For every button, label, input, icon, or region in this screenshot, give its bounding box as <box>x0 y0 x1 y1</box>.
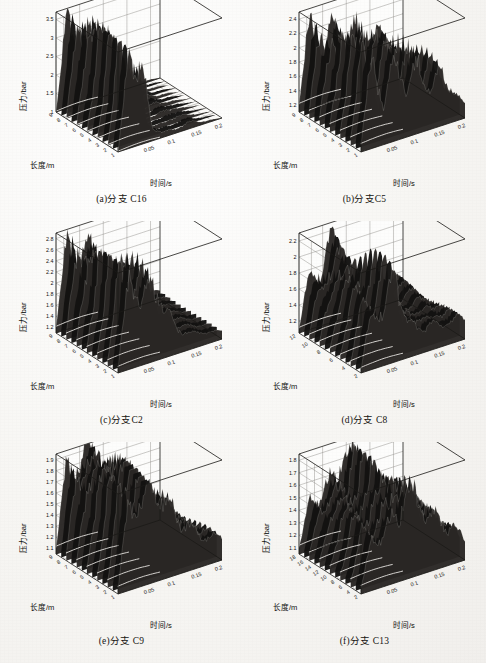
svg-text:4: 4 <box>87 358 93 365</box>
svg-text:4: 4 <box>330 137 336 144</box>
svg-text:8: 8 <box>56 559 62 566</box>
svg-text:2: 2 <box>102 147 108 154</box>
svg-text:7: 7 <box>63 564 69 571</box>
svg-text:0.05: 0.05 <box>143 365 155 374</box>
svg-text:5: 5 <box>79 574 85 581</box>
svg-text:0.1: 0.1 <box>410 137 419 145</box>
svg-text:2: 2 <box>294 254 297 260</box>
plot-panel-a: 11.522.533.50.050.10.150.2123456789压力/ba… <box>0 0 243 221</box>
svg-text:3: 3 <box>51 35 54 41</box>
plot-panel-d: 1.21.41.61.822.20.050.10.150.224681012压力… <box>243 221 486 442</box>
svg-text:时间/s: 时间/s <box>393 178 415 188</box>
svg-text:0.2: 0.2 <box>457 564 466 572</box>
svg-text:0.15: 0.15 <box>190 129 202 138</box>
panel-caption-c: (c)分支C2 <box>0 412 243 426</box>
svg-text:0.15: 0.15 <box>190 571 202 580</box>
svg-text:0.15: 0.15 <box>433 350 445 359</box>
svg-text:2: 2 <box>353 373 359 380</box>
svg-text:0.2: 0.2 <box>457 343 466 351</box>
svg-text:14: 14 <box>304 564 312 572</box>
svg-text:0.2: 0.2 <box>457 122 466 130</box>
svg-text:2: 2 <box>345 147 351 154</box>
svg-text:0.05: 0.05 <box>143 586 155 595</box>
svg-text:8: 8 <box>330 579 336 586</box>
svg-text:4: 4 <box>87 579 93 586</box>
svg-text:3: 3 <box>94 584 100 591</box>
svg-text:1.8: 1.8 <box>289 457 297 463</box>
svg-text:5: 5 <box>79 132 85 139</box>
svg-text:1.9: 1.9 <box>46 457 54 463</box>
svg-text:1.4: 1.4 <box>289 88 297 94</box>
plot-panel-c: 1.21.41.61.822.22.42.62.80.050.10.150.21… <box>0 221 243 442</box>
svg-text:时间/s: 时间/s <box>393 620 415 630</box>
svg-text:6: 6 <box>71 569 77 576</box>
surface-chart-a: 11.522.533.50.050.10.150.2123456789压力/ba… <box>0 0 243 221</box>
svg-text:1.5: 1.5 <box>46 501 54 507</box>
svg-text:0.05: 0.05 <box>143 144 155 153</box>
svg-text:0.2: 0.2 <box>214 564 223 572</box>
svg-text:时间/s: 时间/s <box>150 399 172 409</box>
panel-caption-d: (d)分支 C8 <box>243 412 486 426</box>
svg-text:1.7: 1.7 <box>46 479 54 485</box>
svg-text:2.8: 2.8 <box>46 236 54 242</box>
svg-text:1.1: 1.1 <box>289 545 297 551</box>
svg-text:5: 5 <box>322 132 328 139</box>
svg-text:1.5: 1.5 <box>46 90 54 96</box>
svg-text:1.4: 1.4 <box>46 512 54 518</box>
svg-text:7: 7 <box>63 343 69 350</box>
svg-text:0.2: 0.2 <box>214 122 223 130</box>
svg-text:10: 10 <box>301 341 309 349</box>
svg-text:0.2: 0.2 <box>214 343 223 351</box>
svg-text:0.05: 0.05 <box>386 365 398 374</box>
svg-text:0.1: 0.1 <box>167 579 176 587</box>
svg-text:4: 4 <box>340 365 346 372</box>
svg-text:5: 5 <box>79 353 85 360</box>
svg-text:6: 6 <box>337 584 343 591</box>
svg-text:1.2: 1.2 <box>46 534 54 540</box>
svg-text:1.3: 1.3 <box>289 520 297 526</box>
svg-text:8: 8 <box>56 117 62 124</box>
svg-text:2: 2 <box>51 280 54 286</box>
svg-text:1.2: 1.2 <box>289 532 297 538</box>
svg-text:1.7: 1.7 <box>289 470 297 476</box>
svg-text:0.15: 0.15 <box>190 350 202 359</box>
svg-text:压力/bar: 压力/bar <box>261 302 271 332</box>
panel-caption-b: (b)分支C5 <box>243 191 486 205</box>
svg-text:压力/bar: 压力/bar <box>261 523 271 553</box>
svg-text:9: 9 <box>291 112 297 119</box>
svg-text:1.6: 1.6 <box>289 482 297 488</box>
surface-chart-d: 1.21.41.61.822.20.050.10.150.224681012压力… <box>243 221 486 442</box>
svg-text:12: 12 <box>312 569 320 577</box>
svg-text:1.2: 1.2 <box>289 318 297 324</box>
svg-text:0.1: 0.1 <box>410 579 419 587</box>
panel-caption-e: (e)分支 C9 <box>0 633 243 647</box>
svg-text:长度/m: 长度/m <box>273 381 297 391</box>
surface-chart-f: 1.11.21.31.41.51.61.71.80.050.10.150.224… <box>243 442 486 663</box>
svg-text:7: 7 <box>306 122 312 129</box>
surface-chart-b: 1.21.41.61.822.22.40.050.10.150.21234567… <box>243 0 486 221</box>
svg-text:时间/s: 时间/s <box>150 178 172 188</box>
svg-text:9: 9 <box>48 554 54 561</box>
svg-text:长度/m: 长度/m <box>30 602 54 612</box>
svg-text:4: 4 <box>345 589 351 596</box>
svg-text:3: 3 <box>337 142 343 149</box>
svg-text:压力/bar: 压力/bar <box>18 302 28 332</box>
svg-text:0.05: 0.05 <box>386 586 398 595</box>
svg-text:6: 6 <box>328 357 334 364</box>
svg-text:1.2: 1.2 <box>46 324 54 330</box>
svg-text:1.4: 1.4 <box>289 302 297 308</box>
panel-caption-a: (a)分支 C16 <box>0 191 243 205</box>
svg-text:0.15: 0.15 <box>433 571 445 580</box>
svg-text:7: 7 <box>63 122 69 129</box>
svg-text:2: 2 <box>353 594 359 601</box>
svg-text:2: 2 <box>294 45 297 51</box>
svg-text:3: 3 <box>94 363 100 370</box>
svg-text:6: 6 <box>71 348 77 355</box>
svg-text:0.1: 0.1 <box>167 358 176 366</box>
svg-text:2.2: 2.2 <box>289 30 297 36</box>
plot-panel-f: 1.11.21.31.41.51.61.71.80.050.10.150.224… <box>243 442 486 663</box>
svg-text:0.1: 0.1 <box>410 358 419 366</box>
svg-text:8: 8 <box>299 117 305 124</box>
svg-text:1.8: 1.8 <box>289 59 297 65</box>
svg-text:2.5: 2.5 <box>46 53 54 59</box>
